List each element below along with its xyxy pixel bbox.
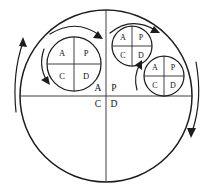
inner-circle-right-label-plan: P [171, 63, 176, 72]
outer-circle-label-do: D [111, 99, 118, 109]
inner-circle-top-label-plan: P [139, 33, 144, 42]
outer-circle-label-act: A [95, 83, 102, 93]
outer-circle-label-plan: P [111, 83, 116, 93]
pdca-diagram-canvas: A P C D A P C D A P C D [0, 0, 213, 192]
inner-circle-right-label-check: C [152, 81, 157, 90]
inner-circle-left-label-act: A [59, 48, 66, 58]
inner-circle-top-group: A P C D [112, 26, 152, 66]
arrow-right-circle-icon [135, 60, 142, 90]
inner-circle-left-group: A P C D [47, 37, 101, 91]
inner-circle-left-label-check: C [59, 71, 65, 81]
inner-circle-right-group: A P C D [144, 56, 184, 96]
inner-circle-left-label-plan: P [84, 48, 89, 58]
outer-circle-label-check: C [95, 99, 101, 109]
inner-circle-top-label-act: A [120, 33, 126, 42]
pdca-diagram: A P C D A P C D A P C D [0, 0, 213, 192]
arrow-outer-left-icon [15, 37, 27, 112]
inner-circle-right-label-do: D [170, 81, 176, 90]
inner-circle-top-label-do: D [138, 51, 144, 60]
inner-circle-right-label-act: A [152, 63, 158, 72]
inner-circle-left-label-do: D [83, 71, 89, 81]
inner-circle-top-label-check: C [120, 51, 125, 60]
